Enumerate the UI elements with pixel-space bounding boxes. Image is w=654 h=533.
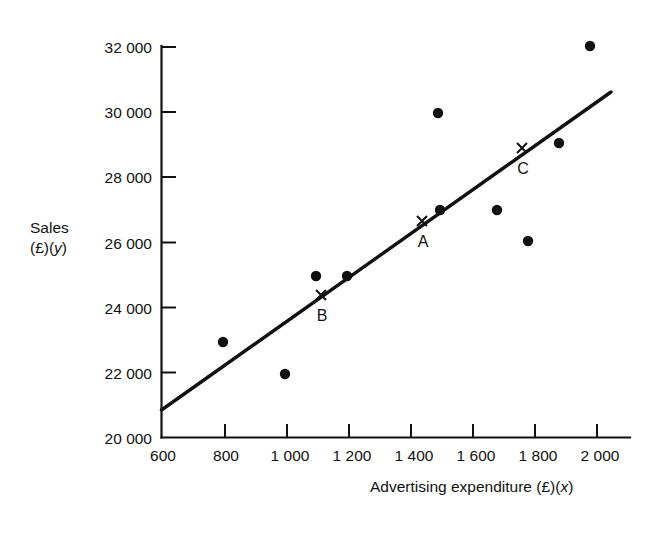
x-tick-label-1400: 1 400 <box>395 447 434 464</box>
marked-point-c: C <box>517 143 529 177</box>
data-point <box>492 205 502 215</box>
x-tick-label-800: 800 <box>213 447 239 464</box>
data-point <box>435 205 445 215</box>
scatter-plot: 32 000 30 000 28 000 26 000 24 000 22 00… <box>0 0 654 533</box>
marked-point-label-c: C <box>517 160 529 177</box>
x-axis-title: Advertising expenditure (£)(x) <box>370 478 573 495</box>
x-tick-labels: 600 800 1 000 1 200 1 400 1 600 1 800 2 … <box>150 447 620 464</box>
x-axis-title-main: Advertising expenditure (£)( <box>370 478 561 495</box>
data-point <box>311 271 321 281</box>
x-tick-label-2000: 2 000 <box>581 447 620 464</box>
data-point <box>554 138 564 148</box>
data-point <box>342 271 352 281</box>
data-point <box>585 41 595 51</box>
marked-point-label-b: B <box>317 307 328 324</box>
y-axis-title-prefix: (£)( <box>30 239 55 256</box>
marked-point-label-a: A <box>418 233 429 250</box>
y-tick-label-28000: 28 000 <box>105 169 153 186</box>
x-tick-label-1000: 1 000 <box>271 447 310 464</box>
data-point <box>523 236 533 246</box>
cross-icon <box>517 143 527 153</box>
x-tick-label-1600: 1 600 <box>457 447 496 464</box>
regression-line <box>162 92 612 410</box>
y-tick-labels: 32 000 30 000 28 000 26 000 24 000 22 00… <box>105 39 153 447</box>
data-point <box>280 369 290 379</box>
y-axis-title-line1: Sales <box>30 219 69 236</box>
y-tick-label-24000: 24 000 <box>105 300 153 317</box>
chart-page: 32 000 30 000 28 000 26 000 24 000 22 00… <box>0 0 654 533</box>
y-tick-label-22000: 22 000 <box>105 365 153 382</box>
y-tick-label-20000: 20 000 <box>105 430 153 447</box>
y-tick-marks <box>162 47 177 373</box>
data-point <box>433 108 443 118</box>
x-tick-label-600: 600 <box>150 447 176 464</box>
y-axis-title-line2: (£)(y) <box>30 239 67 256</box>
x-tick-label-1800: 1 800 <box>519 447 558 464</box>
y-axis-title: Sales (£)(y) <box>30 219 69 256</box>
data-point <box>218 337 228 347</box>
axes-group <box>162 46 631 438</box>
y-tick-label-30000: 30 000 <box>105 104 153 121</box>
x-axis-title-close: ) <box>568 478 573 495</box>
y-tick-label-32000: 32 000 <box>105 39 153 56</box>
y-axis-title-suffix: ) <box>62 239 67 256</box>
y-tick-label-26000: 26 000 <box>105 235 153 252</box>
x-tick-marks <box>225 424 597 438</box>
x-tick-label-1200: 1 200 <box>333 447 372 464</box>
